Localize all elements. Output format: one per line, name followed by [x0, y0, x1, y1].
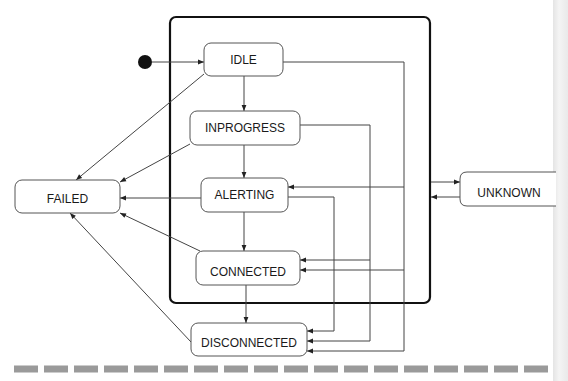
state-idle: IDLE — [204, 43, 283, 76]
state-disconnected-label: DISCONNECTED — [201, 336, 297, 350]
edge-inprogress-bus — [300, 125, 370, 341]
state-disconnected: DISCONNECTED — [191, 323, 307, 356]
edge-idle-failed — [76, 74, 204, 180]
state-inprogress: INPROGRESS — [190, 111, 300, 145]
state-alerting: ALERTING — [201, 178, 288, 212]
edge-disconnected-failed — [70, 213, 191, 342]
state-inprogress-label: INPROGRESS — [205, 121, 285, 135]
state-unknown-label: UNKNOWN — [477, 186, 540, 200]
state-alerting-label: ALERTING — [215, 188, 275, 202]
state-failed-label: FAILED — [47, 192, 89, 206]
state-connected-label: CONNECTED — [210, 265, 286, 279]
edge-inprogress-failed — [120, 144, 190, 182]
state-idle-label: IDLE — [230, 53, 257, 67]
edge-connected-failed — [120, 213, 200, 251]
edge-idle-bus — [283, 62, 404, 351]
initial-state-dot — [138, 55, 152, 69]
state-unknown: UNKNOWN — [460, 172, 556, 206]
state-diagram: IDLE INPROGRESS ALERTING CONNECTED DISCO… — [0, 0, 568, 381]
state-connected: CONNECTED — [196, 251, 300, 285]
state-failed: FAILED — [15, 180, 120, 213]
